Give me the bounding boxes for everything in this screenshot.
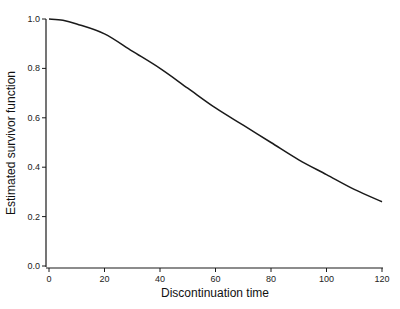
y-tick-label: 1.0 [27,14,40,24]
survivor-function-chart: 0.00.20.40.60.81.0 020406080100120 Disco… [0,0,400,309]
y-tick-label: 0.6 [27,113,40,123]
x-tick-label: 120 [374,274,389,284]
survivor-curve [49,19,382,202]
y-tick-label: 0.2 [27,212,40,222]
x-tick-label: 20 [99,274,109,284]
y-tick-label: 0.4 [27,162,40,172]
y-axis: 0.00.20.40.60.81.0 [27,14,46,271]
x-tick-label: 100 [319,274,334,284]
x-tick-label: 0 [46,274,51,284]
x-axis: 020406080100120 [46,268,390,284]
y-tick-label: 0.8 [27,63,40,73]
x-tick-label: 80 [266,274,276,284]
y-tick-label: 0.0 [27,261,40,271]
x-axis-label: Discontinuation time [161,286,269,300]
x-tick-label: 60 [210,274,220,284]
y-axis-label: Estimated survivor function [4,71,18,215]
x-tick-label: 40 [155,274,165,284]
